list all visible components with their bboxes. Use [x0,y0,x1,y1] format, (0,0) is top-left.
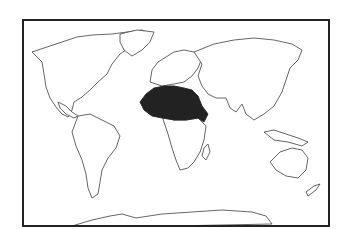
asia [194,38,302,120]
world-map [24,21,328,225]
map-frame [22,19,330,227]
south-america [72,114,120,198]
antarctica [72,210,272,225]
madagascar [202,144,210,160]
new-zealand [306,184,320,196]
africa [162,116,206,170]
greenland [120,30,154,56]
australia [270,148,308,178]
europe [150,50,202,86]
highlighted-north-africa [140,86,208,122]
indonesia [264,130,308,146]
